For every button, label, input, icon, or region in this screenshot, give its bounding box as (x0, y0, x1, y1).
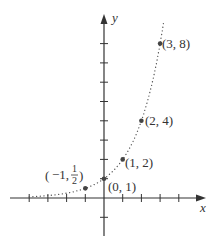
frac-numerator: 1 (72, 163, 77, 174)
y-axis-arrow-icon (101, 14, 108, 24)
dotted-curve (29, 21, 164, 197)
curve-path (29, 21, 164, 197)
data-point (83, 186, 88, 191)
y-axis-label: y (110, 10, 118, 25)
point-label-3-8: (3, 8) (162, 36, 190, 51)
point-label-1-2: (1, 2) (125, 155, 153, 170)
open-paren: ( (45, 168, 49, 183)
frac-denominator: 2 (72, 175, 77, 186)
exponential-graph: y x (3, 8) (2, 4) (1, 2) (0, 1) ( −1, 1 … (0, 0, 216, 246)
x-axis-label: x (199, 200, 206, 215)
close-paren: ) (79, 168, 83, 183)
label-neg1: −1, (52, 167, 69, 182)
point-label-neg1-half: ( −1, 1 2 ) (45, 163, 83, 186)
point-label-0-1: (0, 1) (108, 179, 136, 194)
data-point (139, 119, 144, 124)
point-label-2-4: (2, 4) (145, 113, 173, 128)
data-point (102, 176, 107, 181)
